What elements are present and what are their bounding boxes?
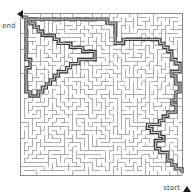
start-label: start [163,185,180,192]
maze-figure: end start [0,0,193,195]
maze-wall-lines [20,13,182,175]
triangle-left-icon [17,10,23,18]
maze-walls-layer [20,13,182,175]
triangle-up-icon [183,186,191,192]
end-label: end [2,23,16,30]
maze-canvas [0,0,193,195]
